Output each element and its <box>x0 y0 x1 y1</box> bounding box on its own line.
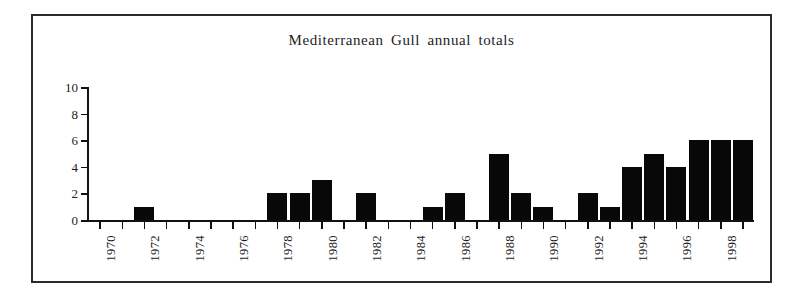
x-axis-tick-label: 1988 <box>504 235 517 262</box>
x-axis-tick <box>232 222 234 229</box>
x-axis-tick-label: 1998 <box>726 235 739 262</box>
bar <box>290 193 310 220</box>
x-axis-tick-label: 1972 <box>149 235 162 262</box>
y-axis-tick-label: 0 <box>72 214 79 227</box>
x-axis-tick <box>609 222 611 229</box>
x-axis-tick-label: 1994 <box>637 235 650 262</box>
x-axis-tick <box>343 222 345 229</box>
x-axis-tick <box>188 222 190 229</box>
x-axis-tick-label: 1982 <box>371 235 384 262</box>
x-axis-tick-label: 1976 <box>238 235 251 262</box>
y-axis-tick <box>81 193 87 195</box>
y-axis-tick-label: 4 <box>72 160 79 173</box>
x-axis-tick-label: 1974 <box>194 235 207 262</box>
bar <box>578 193 598 220</box>
bar <box>511 193 531 220</box>
y-axis-tick-label: 6 <box>72 134 79 147</box>
x-axis-tick <box>410 222 412 229</box>
x-axis-tick <box>476 222 478 229</box>
x-axis-tick <box>166 222 168 229</box>
x-axis-tick-label: 1992 <box>593 235 606 262</box>
bar <box>600 207 620 220</box>
x-axis-tick <box>388 222 390 229</box>
bars-layer <box>89 87 754 220</box>
x-axis-tick <box>698 222 700 229</box>
x-axis-tick <box>365 222 367 229</box>
bar <box>711 140 731 220</box>
x-axis-tick-label: 1986 <box>460 235 473 262</box>
bar <box>489 154 509 221</box>
y-axis-tick-label: 2 <box>72 187 79 200</box>
x-axis-tick <box>210 222 212 229</box>
bar <box>733 140 753 220</box>
x-axis-tick <box>122 222 124 229</box>
x-axis-tick <box>565 222 567 229</box>
bar <box>666 167 686 220</box>
x-axis-tick-label: 1978 <box>282 235 295 262</box>
chart-title: Mediterranean Gull annual totals <box>33 32 770 49</box>
x-axis-tick-label: 1980 <box>327 235 340 262</box>
bar <box>423 207 443 220</box>
bar <box>533 207 553 220</box>
x-axis-tick <box>521 222 523 229</box>
y-axis-tick <box>81 220 87 222</box>
x-axis-tick <box>454 222 456 229</box>
bar <box>644 154 664 221</box>
x-axis-tick <box>255 222 257 229</box>
x-axis-tick <box>631 222 633 229</box>
y-axis-tick-label: 8 <box>72 107 79 120</box>
x-axis-tick <box>654 222 656 229</box>
x-axis-tick-label: 1996 <box>681 235 694 262</box>
x-axis-tick <box>543 222 545 229</box>
figure-frame: Mediterranean Gull annual totals 0246810… <box>31 14 772 283</box>
bar <box>267 193 287 220</box>
bar <box>445 193 465 220</box>
x-axis-tick <box>299 222 301 229</box>
x-axis-tick-label: 1984 <box>415 235 428 262</box>
plot-area: 0246810 19701972197419761978198019821984… <box>87 87 757 220</box>
x-axis-tick <box>432 222 434 229</box>
bar <box>622 167 642 220</box>
x-axis-tick <box>498 222 500 229</box>
y-axis-tick <box>81 87 87 89</box>
bar <box>312 180 332 220</box>
y-axis-tick-label: 10 <box>65 81 78 94</box>
x-axis-tick-label: 1970 <box>105 235 118 262</box>
x-axis-tick <box>587 222 589 229</box>
x-axis-tick <box>742 222 744 229</box>
x-axis-tick <box>144 222 146 229</box>
bar <box>356 193 376 220</box>
x-axis-tick <box>720 222 722 229</box>
bar <box>689 140 709 220</box>
x-axis-tick <box>99 222 101 229</box>
x-axis-tick-label: 1990 <box>548 235 561 262</box>
x-axis-tick <box>277 222 279 229</box>
x-axis-tick <box>676 222 678 229</box>
y-axis-tick <box>81 114 87 116</box>
y-axis-tick <box>81 167 87 169</box>
x-axis-tick <box>321 222 323 229</box>
y-axis-tick <box>81 140 87 142</box>
bar <box>134 207 154 220</box>
